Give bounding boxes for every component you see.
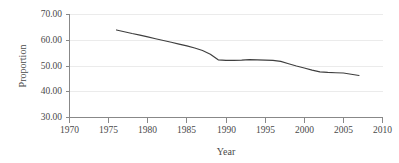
x-tick-label-2005: 2005: [334, 125, 353, 135]
x-tick-label-1980: 1980: [138, 125, 157, 135]
y-tick-label-60: 60.00: [41, 35, 63, 45]
x-tick-label-2010: 2010: [373, 125, 392, 135]
x-tick-label-1995: 1995: [256, 125, 275, 135]
x-axis-ticks: [70, 118, 383, 123]
line-chart: 70.00 60.00 50.00 40.00 30.00 1970 1975 …: [0, 0, 399, 163]
y-axis-ticks: [66, 15, 70, 118]
x-tick-label-1990: 1990: [217, 125, 236, 135]
x-axis-tick-labels: 1970 1975 1980 1985 1990 1995 2000 2005 …: [60, 125, 392, 135]
x-tick-label-1975: 1975: [99, 125, 118, 135]
y-tick-label-30: 30.00: [41, 112, 63, 122]
y-tick-label-50: 50.00: [41, 61, 63, 71]
y-axis-title: Proportion: [17, 45, 28, 88]
series-line-proportion: [116, 30, 359, 76]
gridlines: [70, 15, 383, 92]
x-axis-title: Year: [217, 146, 236, 157]
x-tick-label-2000: 2000: [295, 125, 314, 135]
y-tick-label-70: 70.00: [41, 9, 63, 19]
chart-canvas: 70.00 60.00 50.00 40.00 30.00 1970 1975 …: [0, 0, 399, 163]
x-tick-label-1985: 1985: [177, 125, 196, 135]
x-tick-label-1970: 1970: [60, 125, 79, 135]
y-axis-tick-labels: 70.00 60.00 50.00 40.00 30.00: [41, 9, 63, 122]
y-tick-label-40: 40.00: [41, 86, 63, 96]
